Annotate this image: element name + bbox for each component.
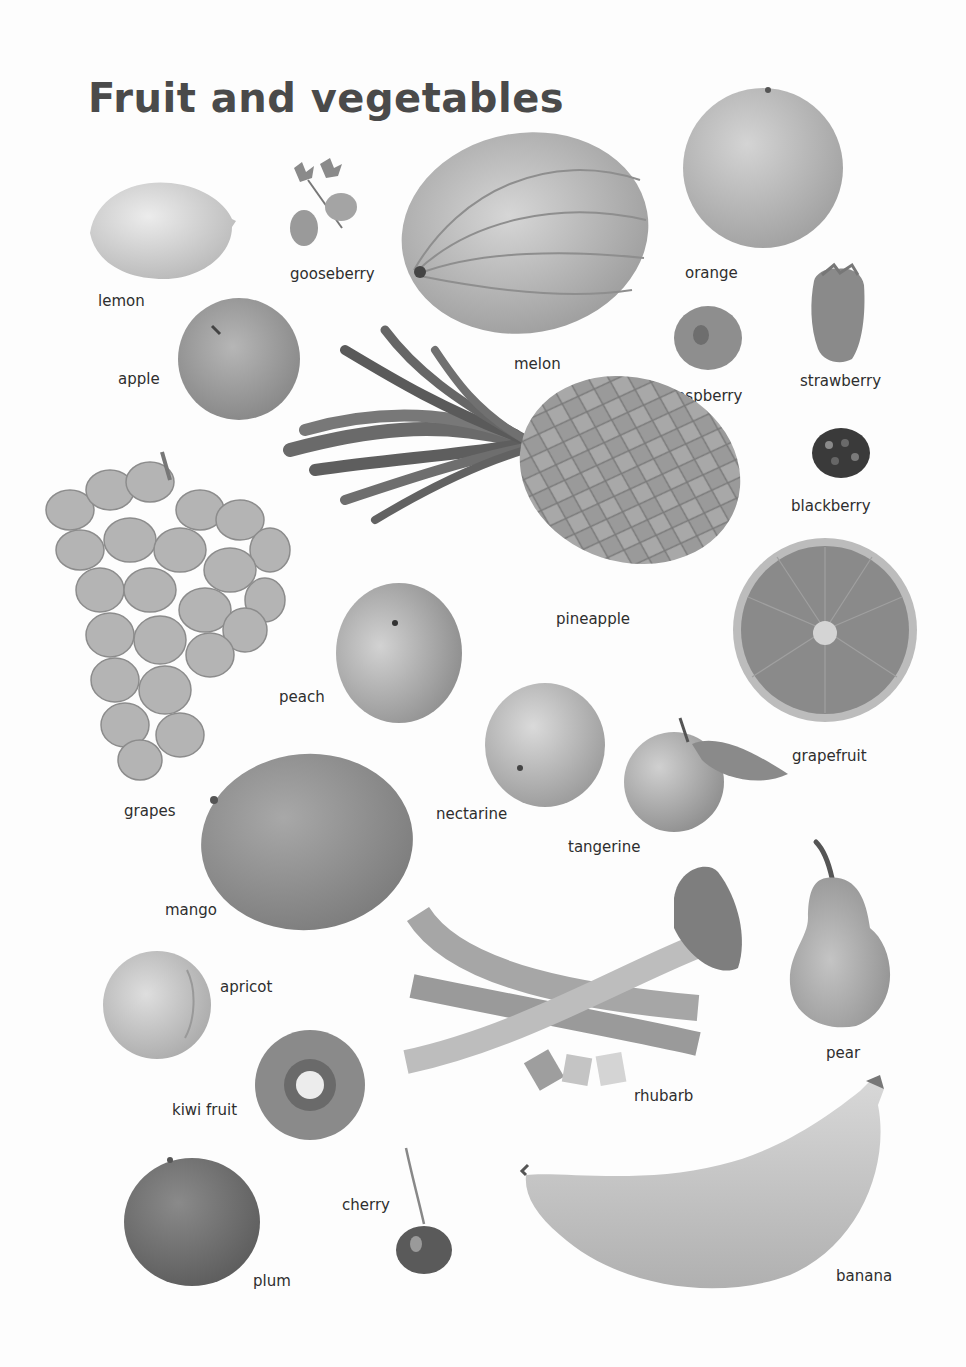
tangerine-label: tangerine xyxy=(568,840,640,855)
page-title: Fruit and vegetables xyxy=(88,78,564,118)
kiwi-fruit-label: kiwi fruit xyxy=(172,1103,237,1118)
tangerine-image xyxy=(620,716,790,832)
peach-image xyxy=(335,578,463,724)
blackberry-image xyxy=(811,427,871,479)
plum-image xyxy=(122,1156,262,1288)
pear-image xyxy=(786,838,900,1030)
gooseberry-label: gooseberry xyxy=(290,267,375,282)
apple-label: apple xyxy=(118,372,160,387)
grapefruit-image xyxy=(732,537,918,723)
nectarine-label: nectarine xyxy=(436,807,507,822)
strawberry-image xyxy=(808,265,866,363)
cherry-label: cherry xyxy=(342,1198,390,1213)
nectarine-image xyxy=(484,682,606,808)
rhubarb-image xyxy=(398,858,788,1098)
lemon-label: lemon xyxy=(98,294,145,309)
banana-label: banana xyxy=(836,1269,892,1284)
pineapple-label: pineapple xyxy=(556,612,630,627)
lemon-image xyxy=(86,175,238,285)
gooseberry-image xyxy=(282,158,364,254)
pear-label: pear xyxy=(826,1046,860,1061)
mango-label: mango xyxy=(165,903,217,918)
apple-image xyxy=(176,296,302,420)
peach-label: peach xyxy=(279,690,325,705)
fruit-vegetables-page: Fruit and vegetables lemon gooseberry xyxy=(0,0,966,1367)
banana-image xyxy=(520,1075,888,1295)
grapefruit-label: grapefruit xyxy=(792,749,867,764)
pineapple-image xyxy=(285,320,745,580)
cherry-image xyxy=(394,1146,456,1274)
kiwi-image xyxy=(254,1030,366,1140)
apricot-image xyxy=(101,950,213,1060)
grapes-image xyxy=(40,450,290,790)
orange-label: orange xyxy=(685,266,738,281)
plum-label: plum xyxy=(253,1274,291,1289)
orange-image xyxy=(682,84,844,250)
strawberry-label: strawberry xyxy=(800,374,881,389)
melon-image xyxy=(400,130,650,336)
apricot-label: apricot xyxy=(220,980,272,995)
mango-image xyxy=(200,752,414,932)
grapes-label: grapes xyxy=(124,804,175,819)
blackberry-label: blackberry xyxy=(791,499,871,514)
